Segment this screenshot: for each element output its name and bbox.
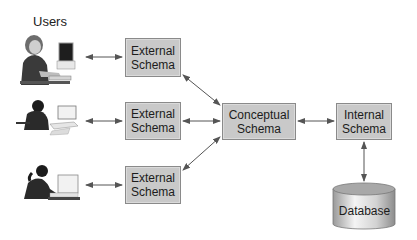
conceptual-schema-box: Conceptual Schema — [222, 103, 296, 140]
external-schema-box-2: External Schema — [125, 102, 181, 140]
external-schema-2-line2: Schema — [131, 121, 175, 135]
external-schema-box-3: External Schema — [125, 166, 181, 204]
external-schema-3-line2: Schema — [131, 185, 175, 199]
external-schema-1-line2: Schema — [131, 58, 175, 72]
external-schema-2-line1: External — [131, 107, 175, 121]
internal-schema-box: Internal Schema — [336, 103, 392, 140]
external-schema-3-line1: External — [131, 171, 175, 185]
internal-schema-line1: Internal — [344, 108, 384, 122]
database-label: Database — [333, 204, 396, 218]
external-schema-box-1: External Schema — [125, 38, 181, 77]
arrow-external1-conceptual — [183, 75, 220, 105]
arrow-external3-conceptual — [183, 137, 220, 170]
external-schema-1-line1: External — [131, 44, 175, 58]
conceptual-schema-line1: Conceptual — [229, 108, 290, 122]
internal-schema-line2: Schema — [342, 122, 386, 136]
conceptual-schema-line2: Schema — [237, 122, 281, 136]
